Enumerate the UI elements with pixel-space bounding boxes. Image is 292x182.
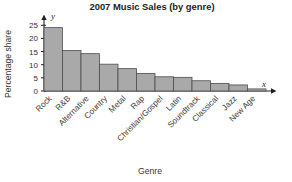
bar: [137, 73, 156, 91]
bar-chart: 2007 Music Sales (by genre) Percentage s…: [0, 0, 292, 182]
y-tick-label: 25: [29, 21, 38, 30]
bar-group: [44, 28, 266, 91]
y-tick-label: 15: [29, 48, 38, 57]
bar: [44, 28, 63, 91]
category-label: Rock: [34, 93, 54, 113]
x-axis-title: Genre: [138, 166, 162, 176]
bar: [155, 77, 174, 91]
bar: [211, 83, 230, 91]
bar: [192, 81, 211, 91]
bar: [229, 85, 248, 91]
bar: [118, 69, 137, 91]
y-tick-label: 10: [29, 61, 38, 70]
bar: [248, 89, 267, 91]
y-axis-title: Percentage share: [3, 30, 13, 98]
y-tick-label: 20: [29, 34, 38, 43]
bar: [81, 54, 100, 91]
x-axis-symbol: x: [261, 79, 266, 89]
y-tick-label: 0: [34, 87, 39, 96]
bar: [100, 64, 119, 91]
bar: [174, 77, 193, 91]
category-label: Metal: [107, 94, 128, 115]
category-label-group: RockR&BAlternativeCountryMetalRapChristi…: [34, 93, 257, 143]
y-tick-label: 5: [34, 74, 39, 83]
bar: [63, 51, 82, 91]
chart-title: 2007 Music Sales (by genre): [89, 1, 214, 12]
y-axis-symbol: y: [50, 11, 55, 21]
